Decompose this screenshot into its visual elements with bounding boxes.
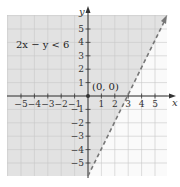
x-tick-label: −3 bbox=[41, 99, 55, 109]
y-tick-label: −4 bbox=[71, 145, 85, 155]
test-point-marker bbox=[86, 94, 90, 98]
inequality-graph: −5−4−3−2−11234554321−1−2−3−4−5 x y 2x − … bbox=[0, 0, 180, 187]
y-tick-label: 1 bbox=[78, 78, 84, 88]
inequality-label: 2x − y < 6 bbox=[16, 39, 70, 50]
x-tick-label: −4 bbox=[28, 99, 42, 109]
test-point-label: (0, 0) bbox=[92, 81, 119, 92]
x-tick-label: 5 bbox=[152, 99, 158, 109]
y-tick-label: 3 bbox=[78, 51, 84, 61]
x-tick-label: 4 bbox=[139, 99, 145, 109]
x-axis-label: x bbox=[172, 97, 178, 108]
x-tick-label: 3 bbox=[125, 99, 131, 109]
y-tick-label: −5 bbox=[71, 158, 85, 168]
y-tick-label: 5 bbox=[78, 24, 84, 34]
y-axis-arrow-icon bbox=[86, 6, 91, 13]
y-tick-label: −2 bbox=[71, 118, 84, 128]
x-tick-label: 2 bbox=[112, 99, 118, 109]
y-tick-label: 2 bbox=[78, 64, 84, 74]
y-tick-label: −3 bbox=[71, 131, 85, 141]
y-axis-label: y bbox=[78, 6, 85, 17]
y-tick-label: −1 bbox=[71, 104, 84, 114]
x-tick-label: 1 bbox=[99, 99, 105, 109]
x-tick-label: −5 bbox=[14, 99, 28, 109]
x-tick-label: −2 bbox=[55, 99, 68, 109]
y-tick-label: 4 bbox=[78, 37, 84, 47]
